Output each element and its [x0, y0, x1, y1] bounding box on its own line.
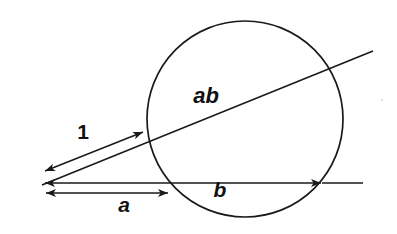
label-a: a: [118, 193, 130, 216]
label-ab: ab: [193, 83, 219, 108]
scan-speck: [381, 99, 383, 101]
label-unit: 1: [77, 120, 89, 143]
diagram-canvas: 1 ab a b: [0, 0, 397, 234]
geometry-figure: 1 ab a b: [0, 0, 397, 234]
main-circle: [147, 21, 343, 217]
secant-line: [42, 51, 373, 185]
label-b: b: [214, 178, 227, 201]
unit-measure-arrow: [45, 132, 143, 171]
